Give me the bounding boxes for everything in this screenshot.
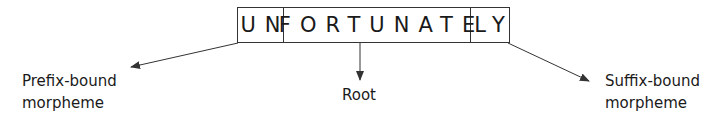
suffix-arrow bbox=[508, 43, 589, 81]
root-segment: FORTUNATE bbox=[284, 8, 471, 42]
word-box: UN FORTUNATE LY bbox=[237, 7, 510, 43]
suffix-segment: LY bbox=[471, 8, 509, 42]
suffix-label-line1: Suffix-bound bbox=[605, 70, 700, 92]
suffix-label-line2: morpheme bbox=[605, 92, 700, 114]
prefix-arrow bbox=[131, 43, 238, 67]
root-label: Root bbox=[342, 84, 376, 106]
suffix-label: Suffix-bound morpheme bbox=[605, 70, 700, 114]
prefix-label: Prefix-bound morpheme bbox=[22, 70, 117, 114]
prefix-segment: UN bbox=[238, 8, 284, 42]
prefix-label-line2: morpheme bbox=[22, 92, 117, 114]
prefix-label-line1: Prefix-bound bbox=[22, 70, 117, 92]
